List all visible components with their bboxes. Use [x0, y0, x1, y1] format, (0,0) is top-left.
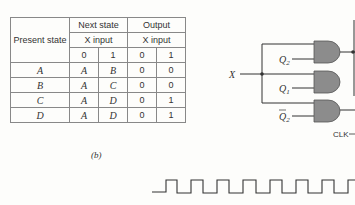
- clk-label: CLK: [333, 130, 349, 139]
- q1-label: Q1: [279, 83, 290, 96]
- clock-waveform: [152, 180, 355, 193]
- and-gate-3-icon: [314, 100, 340, 122]
- x-input-label: X: [228, 69, 236, 80]
- q2-bar-label: Q2: [279, 111, 290, 124]
- q2-label: Q2: [279, 54, 290, 67]
- logic-circuit: X Q2 Q1 Q2 CLK: [0, 0, 355, 205]
- and-gate-2-icon: [314, 71, 340, 93]
- junction-dot: [260, 72, 264, 76]
- and-gate-1-icon: [314, 41, 340, 63]
